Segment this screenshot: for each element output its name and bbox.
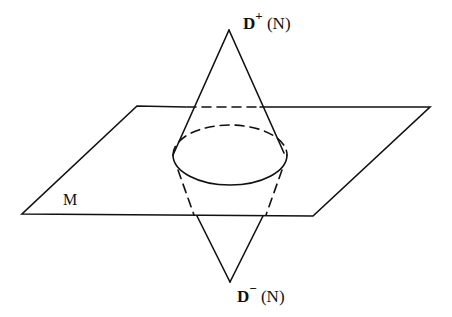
upper-cone-right-side (229, 30, 284, 153)
diagram-canvas (0, 0, 452, 317)
ellipse-back-dashed (173, 125, 287, 155)
lower-cone-right-side (230, 216, 263, 282)
label-D-minus: D− (N) (237, 283, 285, 307)
label-D-plus-base: D (243, 14, 255, 33)
lower-cone-left-side (197, 216, 230, 282)
label-D-plus-arg: (N) (267, 14, 291, 33)
label-D-minus-sup: − (249, 281, 256, 296)
label-D-minus-base: D (237, 287, 249, 306)
ellipse-front-solid (173, 155, 287, 185)
label-D-plus: D+ (N) (243, 10, 291, 34)
label-D-minus-arg: (N) (261, 287, 285, 306)
plane-M-top-edge-left (22, 106, 430, 216)
label-plane-M: M (63, 191, 77, 209)
label-D-plus-sup: + (255, 8, 262, 23)
upper-cone-left-side (173, 30, 229, 155)
